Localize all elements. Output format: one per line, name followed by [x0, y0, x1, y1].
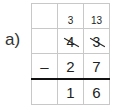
carry-row: 3 13 — [32, 4, 110, 29]
result-row: 1 6 — [32, 79, 110, 105]
subtrahend-row: – 2 7 — [32, 54, 110, 80]
subtrahend-cell: 7 — [84, 54, 110, 80]
struck-digit: 3 — [93, 34, 101, 50]
carry-cell — [32, 4, 58, 29]
carry-cell: 13 — [84, 4, 110, 29]
result-cell: 1 — [58, 79, 84, 105]
carry-cell: 3 — [58, 4, 84, 29]
struck-digit: 4 — [67, 34, 75, 50]
subtrahend-cell: 2 — [58, 54, 84, 80]
minuend-cell: 4 — [58, 29, 84, 54]
subtraction-grid: 3 13 4 3 – 2 7 1 6 — [31, 3, 110, 105]
result-cell: 6 — [84, 79, 110, 105]
minus-sign: – — [32, 54, 58, 80]
minuend-row: 4 3 — [32, 29, 110, 54]
minuend-cell — [32, 29, 58, 54]
problem-label: a) — [5, 30, 20, 50]
minuend-cell: 3 — [84, 29, 110, 54]
result-cell — [32, 79, 58, 105]
